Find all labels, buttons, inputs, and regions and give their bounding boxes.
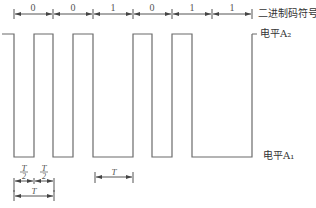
- bit-label-4: 0: [150, 2, 155, 13]
- waveform-signal: [2, 34, 252, 157]
- bit-label-2: 0: [71, 2, 76, 13]
- half-period-denominator-1: 2: [22, 172, 26, 181]
- bit-dimension-line: [14, 9, 252, 19]
- period-label-2: T: [111, 167, 117, 177]
- bit-label-5: 1: [190, 2, 195, 13]
- binary-symbols-label: 二进制码符号: [258, 9, 316, 19]
- bit-label-6: 1: [230, 2, 235, 13]
- half-period-denominator-2: 2: [42, 172, 46, 181]
- period-label-1: T: [31, 186, 37, 196]
- bit-label-1: 0: [31, 2, 36, 13]
- level-high-label: 电平A₂: [260, 29, 291, 39]
- bit-label-3: 1: [111, 2, 116, 13]
- level-low-label: 电平A₁: [263, 151, 294, 161]
